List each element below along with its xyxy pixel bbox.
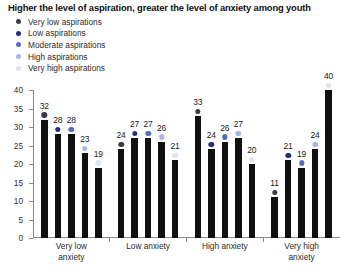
legend-marker-icon [16,19,21,24]
series-marker-icon [96,160,101,165]
legend-item-label: High aspirations [28,52,88,62]
bar-item[interactable]: 21 [281,90,295,238]
bar-value-label: 21 [283,142,292,151]
series-marker-icon [272,190,277,195]
bar-item[interactable]: 24 [308,90,322,238]
bar [145,138,152,238]
bar [271,197,278,238]
series-marker-icon [326,83,331,88]
bar-item[interactable]: 27 [232,90,246,238]
bar-item[interactable]: 32 [38,90,52,238]
bar [118,149,125,238]
x-axis-category-line: Low anxiety [110,241,187,252]
series-marker-icon [132,131,137,136]
bar [55,134,62,238]
series-marker-icon [145,131,150,136]
bar [312,149,319,238]
x-axis-category-line: Very low [33,241,110,252]
bar [249,164,256,238]
bar-groups: 3228282319242727262133242627201121192440 [33,90,340,238]
x-axis-category-label: High anxiety [187,241,264,262]
x-axis-categories: Very lowanxietyLow anxietyHigh anxietyVe… [33,241,340,262]
legend-item-label: Low aspirations [28,28,86,38]
y-axis-label: 30 [14,123,23,131]
series-marker-icon [42,112,47,117]
x-axis-category-line: High anxiety [187,241,264,252]
series-marker-icon [299,160,304,165]
bar-value-label: 32 [40,102,49,111]
x-axis-category-label: Very lowanxiety [33,241,110,262]
bar [172,160,179,238]
x-axis-category-label: Low anxiety [110,241,187,262]
series-marker-icon [236,131,241,136]
bar-value-label: 24 [116,131,125,140]
chart-title: Higher the level of aspiration, greater … [8,2,346,13]
series-marker-icon [195,109,200,114]
legend-item: High aspirations [16,51,105,63]
bar [195,116,202,238]
y-axis-tick [29,238,33,239]
bar-value-label: 27 [130,120,139,129]
legend-marker-icon [16,31,21,36]
bar-item[interactable]: 26 [218,90,232,238]
bar [325,90,332,238]
series-marker-icon [249,157,254,162]
series-marker-icon [285,153,290,158]
bar [131,138,138,238]
bar [235,138,242,238]
legend-item-label: Very low aspirations [28,17,102,27]
y-axis-label: 35 [14,104,23,112]
bar-value-label: 21 [170,142,179,151]
legend-marker-icon [16,42,21,47]
bar-value-label: 28 [67,116,76,125]
bar-item[interactable]: 40 [322,90,336,238]
bar-item[interactable]: 27 [128,90,142,238]
series-marker-icon [172,153,177,158]
bar-group: 3228282319 [33,90,110,238]
bar-item[interactable]: 24 [114,90,128,238]
bar [68,134,75,238]
bar-item[interactable]: 21 [168,90,182,238]
series-marker-icon [159,134,164,139]
legend-marker-icon [16,54,21,59]
bar-item[interactable]: 19 [92,90,106,238]
y-axis-label: 15 [14,178,23,186]
bar-item[interactable]: 28 [65,90,79,238]
bar-item[interactable]: 23 [78,90,92,238]
series-marker-icon [118,142,123,147]
series-marker-icon [222,134,227,139]
bar [158,142,165,238]
bar [82,153,89,238]
x-axis-category-line: anxiety [33,252,110,263]
bar-group: 1121192440 [263,90,340,238]
bar [285,160,292,238]
series-marker-icon [69,127,74,132]
bar-item[interactable]: 20 [245,90,259,238]
bar-item[interactable]: 27 [141,90,155,238]
y-axis-label: 0 [18,234,23,242]
y-axis-label: 10 [14,197,23,205]
series-marker-icon [209,142,214,147]
bar-value-label: 26 [157,124,166,133]
y-axis-label: 5 [18,215,23,223]
bar-value-label: 27 [234,120,243,129]
bar-value-label: 28 [53,116,62,125]
bar-item[interactable]: 24 [205,90,219,238]
chart-legend: Very low aspirationsLow aspirationsModer… [16,16,105,74]
legend-item: Very low aspirations [16,16,105,28]
bar-value-label: 20 [247,146,256,155]
plot-area: 0510152025303540 32282823192427272621332… [33,90,340,238]
bar-item[interactable]: 33 [191,90,205,238]
chart-container: Higher the level of aspiration, greater … [0,0,348,280]
bar-item[interactable]: 26 [155,90,169,238]
y-axis-label: 25 [14,141,23,149]
series-marker-icon [55,127,60,132]
series-marker-icon [82,146,87,151]
bar-value-label: 19 [297,150,306,159]
bar-value-label: 19 [94,150,103,159]
bar-item[interactable]: 11 [268,90,282,238]
bar-item[interactable]: 19 [295,90,309,238]
bar-group: 3324262720 [187,90,264,238]
bar-item[interactable]: 28 [51,90,65,238]
series-marker-icon [312,142,317,147]
